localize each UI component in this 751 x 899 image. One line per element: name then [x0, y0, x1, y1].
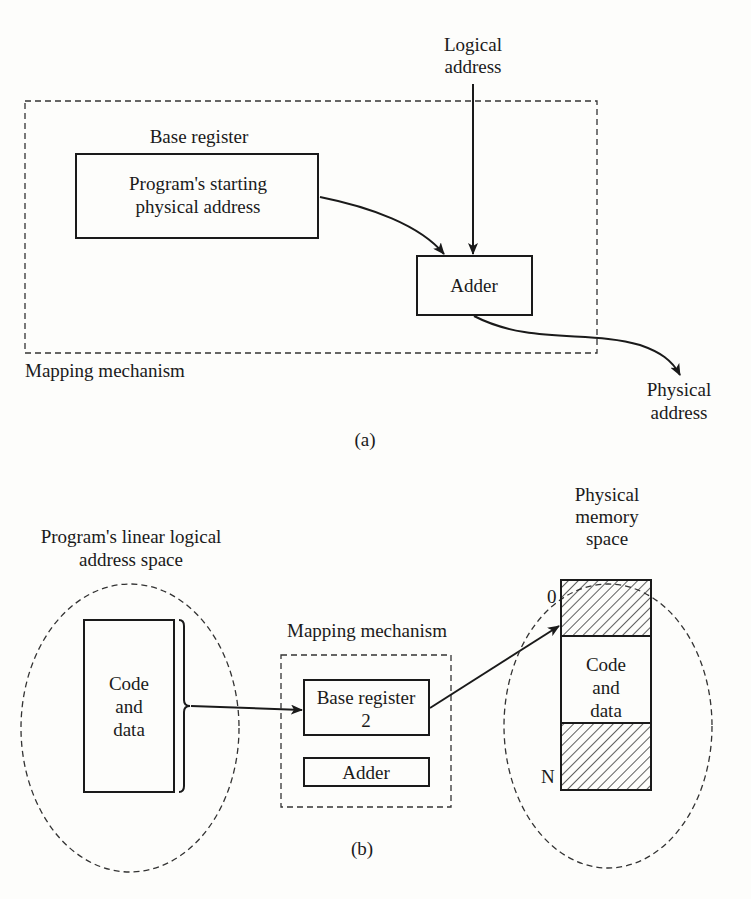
logical-block-label-line2: and [115, 696, 143, 717]
caption-b: (b) [351, 838, 373, 860]
physical-space-title-line1: Physical [575, 484, 639, 505]
mapping-mechanism-label-b: Mapping mechanism [287, 620, 447, 641]
logical-address-label-line2: address [445, 56, 502, 77]
block-brace [179, 620, 190, 792]
address-end-label: N [541, 766, 555, 787]
adder-label-b: Adder [342, 762, 390, 783]
caption-a: (a) [354, 429, 375, 451]
physical-address-arrow [474, 316, 680, 375]
physical-space-title-line3: space [586, 528, 628, 549]
physical-address-label-line2: address [651, 402, 708, 423]
logical-space-title-line1: Program's linear logical [41, 526, 222, 547]
address-start-label: 0 [547, 586, 557, 607]
memory-unused-bottom [561, 723, 651, 790]
physical-space-title-line2: memory [575, 506, 639, 527]
physical-address-label-line1: Physical [647, 379, 711, 400]
mapping-mechanism-boundary-b [281, 655, 451, 807]
logical-block-label-line3: data [113, 719, 145, 740]
base-to-memory-arrow [430, 626, 559, 708]
logical-address-label-line1: Logical [444, 34, 502, 55]
memory-unused-top [561, 580, 651, 636]
memory-block-label-line3: data [590, 700, 622, 721]
base-register-content-line1: Program's starting [129, 173, 267, 194]
adder-label: Adder [450, 275, 498, 296]
memory-block-label-line1: Code [586, 654, 626, 675]
logical-block-label-line1: Code [109, 673, 149, 694]
figure-a: Logical address Base register Program's … [25, 34, 711, 451]
base-register-label-b-line2: 2 [361, 710, 371, 731]
base-register-title: Base register [150, 126, 249, 147]
base-register-label-b-line1: Base register [317, 687, 416, 708]
memory-mapping-diagram: Logical address Base register Program's … [0, 0, 751, 899]
logical-to-base-arrow [191, 706, 302, 710]
logical-space-title-line2: address space [79, 549, 183, 570]
memory-block-label-line2: and [592, 677, 620, 698]
figure-b: Program's linear logical address space C… [21, 484, 712, 872]
base-register-content-line2: physical address [135, 196, 260, 217]
base-to-adder-arrow [320, 197, 444, 254]
mapping-mechanism-label: Mapping mechanism [25, 360, 185, 381]
